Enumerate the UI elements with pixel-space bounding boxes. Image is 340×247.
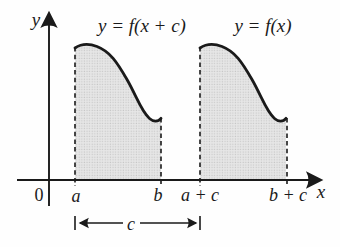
right-curve-label: y = f(x) bbox=[232, 15, 291, 37]
tick-label-a-plus-c: a + c bbox=[181, 185, 219, 205]
tick-label-a: a bbox=[72, 186, 81, 206]
x-axis-label: x bbox=[316, 181, 326, 202]
tick-label-b-plus-c: b + c bbox=[269, 185, 307, 205]
y-axis-label: y bbox=[30, 9, 41, 30]
left-curve-label: y = f(x + c) bbox=[96, 15, 186, 37]
origin-label: 0 bbox=[35, 185, 44, 205]
shift-arrow-label: c bbox=[127, 214, 135, 234]
tick-label-b: b bbox=[154, 185, 163, 205]
figure-canvas: | --> c y = f(x + c) y = f(x) y x 0 a b … bbox=[0, 0, 340, 247]
figure-background bbox=[0, 0, 340, 247]
figure-container: | --> c y = f(x + c) y = f(x) y x 0 a b … bbox=[0, 0, 340, 247]
